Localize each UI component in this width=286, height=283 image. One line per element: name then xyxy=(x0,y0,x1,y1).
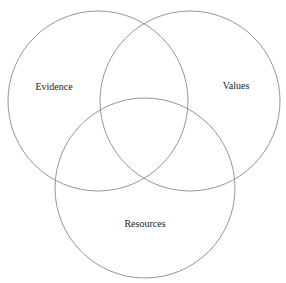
circle-evidence xyxy=(8,11,188,191)
venn-circles xyxy=(0,0,286,283)
label-resources: Resources xyxy=(124,218,165,229)
label-values: Values xyxy=(223,80,250,91)
circle-values xyxy=(100,11,280,191)
label-evidence: Evidence xyxy=(35,81,72,92)
circle-resources xyxy=(55,98,235,278)
venn-diagram: Evidence Values Resources xyxy=(0,0,286,283)
